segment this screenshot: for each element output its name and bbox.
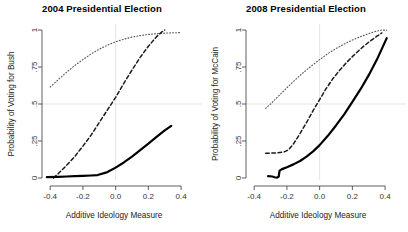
x-tick-label: 0.4 (176, 192, 188, 201)
y-axis-title: Probability of Voting for McCain (211, 46, 220, 161)
x-tick-label: 0.0 (314, 192, 326, 201)
series-dashed-middle (266, 33, 382, 153)
series-solid-lower (268, 38, 387, 177)
y-tick-label: .25 (30, 135, 39, 147)
x-tick-label: 0.4 (380, 192, 392, 201)
x-axis-title: Additive Ideology Measure (66, 211, 163, 220)
y-tick-label: 0 (30, 175, 39, 180)
y-tick-label: .5 (30, 100, 39, 107)
x-tick-label: 0.2 (347, 192, 359, 201)
x-tick-label: 0.0 (110, 192, 122, 201)
y-tick-label: .25 (234, 135, 243, 147)
x-tick-label: -0.4 (247, 192, 261, 201)
y-tick-label: .5 (234, 100, 243, 107)
y-tick-label: 1 (30, 27, 39, 32)
y-tick-label: 1 (234, 27, 243, 32)
panel-2004: 2004 Presidential Election 0.25.5.751-0.… (0, 0, 204, 232)
x-tick-label: -0.2 (76, 192, 90, 201)
x-tick-label: -0.2 (280, 192, 294, 201)
plot-area-2004: 0.25.5.751-0.4-0.20.00.20.4Additive Ideo… (0, 0, 204, 232)
panel-2008: 2008 Presidential Election 0.25.5.751-0.… (204, 0, 408, 232)
plot-area-2008: 0.25.5.751-0.4-0.20.00.20.4Additive Ideo… (204, 0, 408, 232)
y-tick-label: .75 (30, 61, 39, 73)
x-axis-title: Additive Ideology Measure (270, 211, 367, 220)
x-tick-label: 0.2 (143, 192, 155, 201)
y-tick-label: .75 (234, 61, 243, 73)
series-solid-lower (47, 126, 171, 177)
figure-two-panel-chart: 2004 Presidential Election 0.25.5.751-0.… (0, 0, 408, 232)
y-tick-label: 0 (234, 175, 243, 180)
y-axis-title: Probability of Voting for Bush (7, 51, 16, 157)
x-tick-label: -0.4 (43, 192, 57, 201)
